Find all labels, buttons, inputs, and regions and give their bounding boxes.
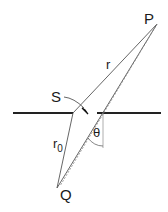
label-r: r (106, 57, 111, 72)
surface-arrow-icon (82, 108, 88, 114)
diffraction-diagram: P r S r0 θ Q (0, 0, 168, 212)
label-r0-sub: 0 (57, 143, 63, 154)
ray-r (73, 24, 157, 113)
s-pointer (64, 97, 84, 108)
label-S: S (51, 88, 61, 105)
label-Q: Q (60, 186, 72, 203)
label-r0: r0 (53, 136, 63, 154)
dashed-pq (60, 24, 157, 186)
label-theta: θ (93, 125, 100, 140)
label-P: P (144, 10, 154, 27)
